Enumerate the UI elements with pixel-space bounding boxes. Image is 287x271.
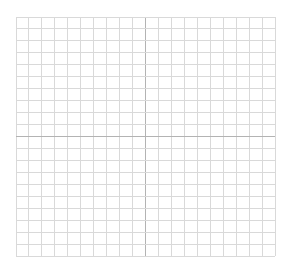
coordinate-grid	[0, 0, 287, 271]
